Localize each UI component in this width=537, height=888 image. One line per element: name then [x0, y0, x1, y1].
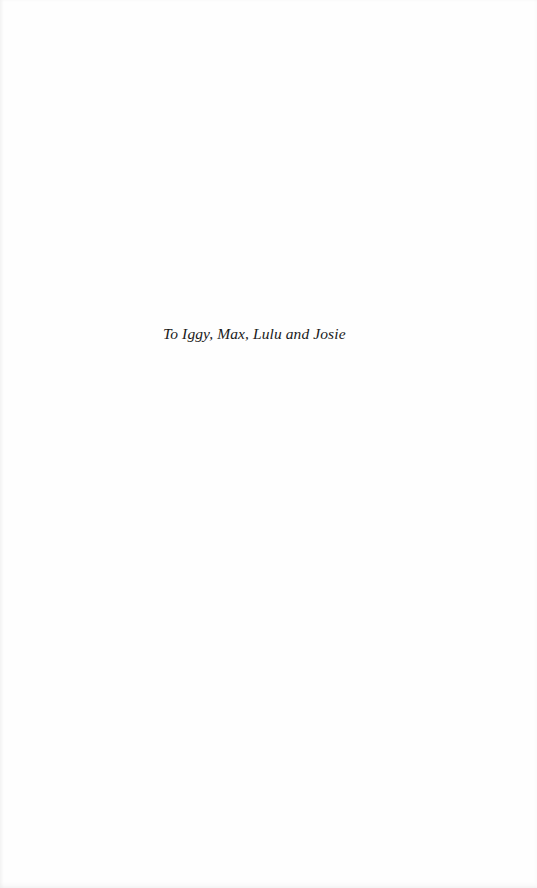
book-page: To Iggy, Max, Lulu and Josie [0, 0, 537, 888]
dedication-text: To Iggy, Max, Lulu and Josie [163, 325, 346, 343]
